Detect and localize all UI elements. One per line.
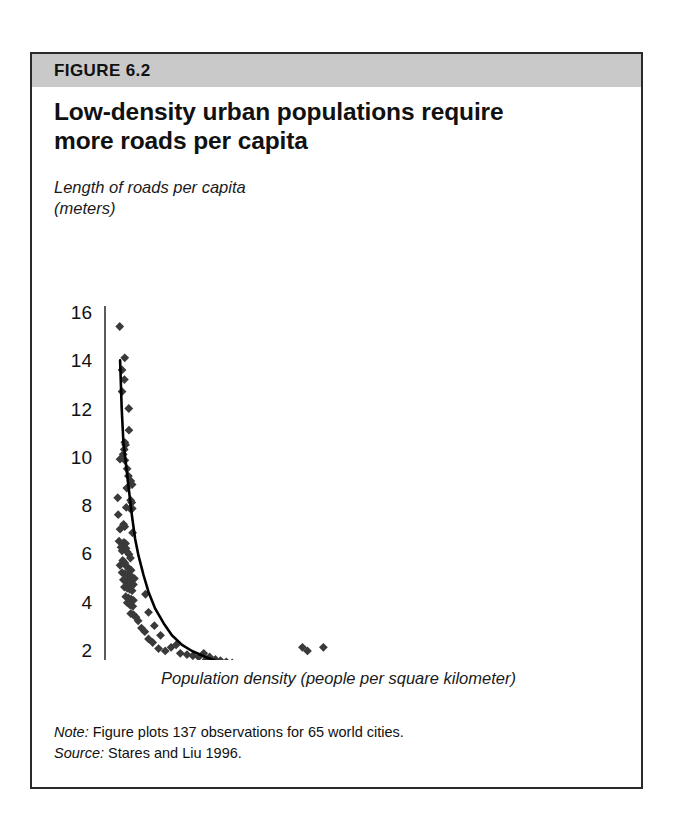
y-tick-label: 2	[81, 640, 92, 660]
data-point	[150, 621, 159, 630]
data-point	[156, 631, 165, 640]
trend-line	[120, 360, 607, 660]
x-axis-caption: Population density (people per square ki…	[32, 669, 645, 688]
note-lead: Note:	[54, 724, 89, 740]
y-axis-caption-line-2: (meters)	[54, 198, 384, 219]
data-point	[319, 643, 328, 652]
figure-container: FIGURE 6.2 Low-density urban populations…	[30, 52, 643, 789]
y-axis-caption-line-1: Length of roads per capita	[54, 177, 384, 198]
data-point	[125, 426, 134, 435]
y-tick-label: 10	[71, 447, 92, 468]
data-point	[113, 493, 122, 502]
data-point	[144, 608, 153, 617]
y-tick-label: 4	[81, 592, 92, 613]
y-tick-label: 16	[71, 302, 92, 323]
figure-title-line-1: Low-density urban populations require	[54, 98, 614, 127]
y-tick-label: 14	[71, 350, 93, 371]
data-point	[120, 353, 129, 362]
y-tick-label: 6	[81, 543, 92, 564]
figure-header-band: FIGURE 6.2	[32, 54, 641, 87]
figure-number-label: FIGURE 6.2	[54, 61, 151, 81]
source-lead: Source:	[54, 745, 104, 761]
fit-curve	[120, 360, 607, 660]
data-point	[176, 649, 185, 658]
note-text: Figure plots 137 observations for 65 wor…	[89, 724, 404, 740]
y-tick-label: 8	[81, 495, 92, 516]
data-point	[118, 366, 127, 375]
source-text: Stares and Liu 1996.	[104, 745, 242, 761]
data-point	[228, 659, 237, 660]
y-axis-caption: Length of roads per capita (meters)	[54, 177, 384, 218]
data-point	[115, 322, 124, 331]
figure-notes: Note: Figure plots 137 observations for …	[54, 722, 624, 764]
figure-title-line-2: more roads per capita	[54, 127, 614, 156]
source-line: Source: Stares and Liu 1996.	[54, 743, 624, 764]
scatter-plot: 0246810121416 05,00010,00015,00020,00025…	[32, 240, 645, 660]
data-point-group	[113, 322, 596, 660]
data-point	[114, 510, 123, 519]
data-point	[124, 404, 133, 413]
figure-title: Low-density urban populations require mo…	[54, 98, 614, 156]
y-tick-label-group: 0246810121416	[71, 302, 93, 660]
axis-lines	[105, 306, 610, 660]
note-line: Note: Figure plots 137 observations for …	[54, 722, 624, 743]
plot-svg: 0246810121416 05,00010,00015,00020,00025…	[32, 240, 645, 660]
y-tick-label: 12	[71, 399, 92, 420]
